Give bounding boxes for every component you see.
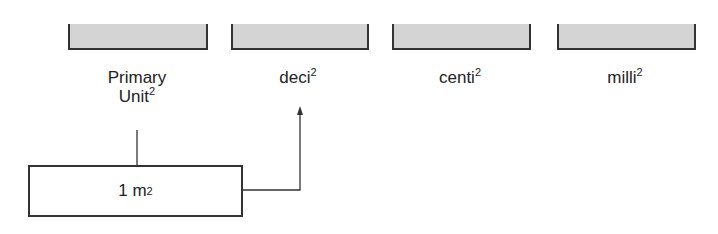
value-text: 1 m (118, 181, 146, 201)
arrowhead-icon (297, 106, 303, 115)
deci-arrow-line (241, 114, 300, 190)
value-box: 1 m2 (28, 165, 243, 217)
